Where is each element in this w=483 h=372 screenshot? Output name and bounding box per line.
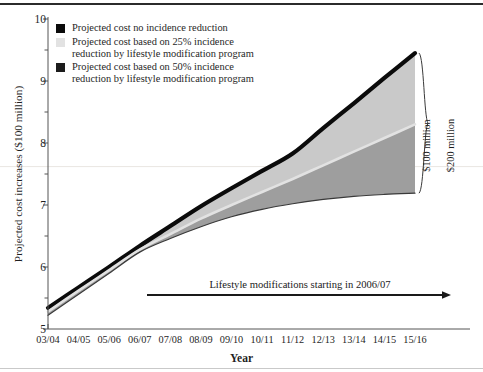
- annotation-200-million: $200 million: [445, 91, 456, 201]
- annotation-100-million: $100 million: [421, 91, 432, 201]
- annotation-arrow-head-icon: [442, 291, 451, 299]
- ytick-label-8: 8: [24, 138, 46, 150]
- y-axis-title: Projected cost increases ($100 million): [12, 74, 24, 274]
- legend-swatch-no-reduction: [55, 23, 66, 34]
- legend-item-25-percent[interactable]: Projected cost based on 25% incidencered…: [55, 36, 305, 59]
- bottom-divider-rule: [0, 368, 483, 369]
- x-axis-title: Year: [0, 352, 483, 364]
- chart-figure: 10 9 8 7 6 5 Projected cost increases ($…: [0, 0, 483, 372]
- legend-label-25-percent: Projected cost based on 25% incidencered…: [72, 36, 254, 59]
- legend-label-no-reduction: Projected cost no incidence reduction: [72, 22, 228, 34]
- legend-swatch-50-percent: [55, 62, 66, 73]
- annotation-lifestyle-modifications: Lifestyle modifications starting in 2006…: [140, 279, 460, 290]
- xtick-label-15-16: 15/16: [397, 334, 433, 345]
- ytick-label-9: 9: [24, 76, 46, 88]
- ytick-label-6: 6: [24, 262, 46, 274]
- chart-legend: Projected cost no incidence reduction Pr…: [55, 22, 305, 86]
- legend-swatch-25-percent: [55, 37, 66, 48]
- ytick-label-10: 10: [24, 14, 46, 26]
- legend-item-no-reduction[interactable]: Projected cost no incidence reduction: [55, 22, 305, 34]
- legend-label-50-percent: Projected cost based on 50% incidencered…: [72, 61, 254, 84]
- legend-item-50-percent[interactable]: Projected cost based on 50% incidencered…: [55, 61, 305, 84]
- ytick-label-7: 7: [24, 200, 46, 212]
